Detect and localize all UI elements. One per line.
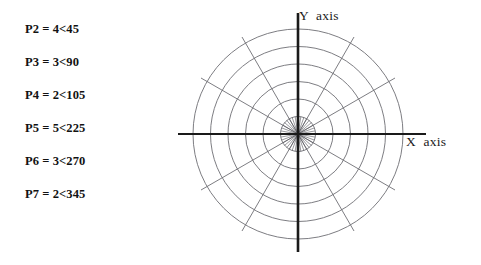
list-item: P6 = 3<270	[25, 154, 165, 187]
polar-points-list: P2 = 4<45 P3 = 3<90 P4 = 2<105 P5 = 5<22…	[25, 22, 165, 220]
list-item: P2 = 4<45	[25, 22, 165, 55]
list-item: P3 = 3<90	[25, 55, 165, 88]
list-item: P4 = 2<105	[25, 88, 165, 121]
polar-grid-svg	[178, 0, 481, 265]
list-item: P7 = 2<345	[25, 187, 165, 220]
polar-grid-plot: Y axis X axis	[178, 0, 481, 265]
x-axis-label: X axis	[406, 134, 446, 150]
polar-coordinates-figure: P2 = 4<45 P3 = 3<90 P4 = 2<105 P5 = 5<22…	[0, 0, 481, 265]
list-item: P5 = 5<225	[25, 121, 165, 154]
y-axis-label: Y axis	[299, 8, 339, 24]
